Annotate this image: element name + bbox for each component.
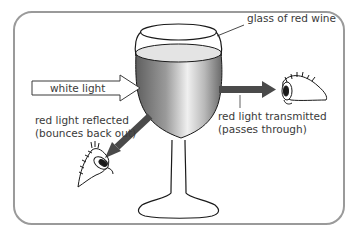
transmitted-label-line1: red light transmitted: [218, 110, 327, 122]
transmitted-label-line2: (passes through): [218, 123, 307, 135]
white-light-label: white light: [50, 82, 105, 94]
glass-label: glass of red wine: [247, 12, 336, 24]
reflected-label-line2: (bounces back out): [35, 127, 136, 139]
reflected-label-line1: red light reflected: [35, 114, 129, 126]
wine-surface: [136, 44, 222, 62]
diagram-canvas: glass of red wine white light red light …: [0, 0, 355, 238]
